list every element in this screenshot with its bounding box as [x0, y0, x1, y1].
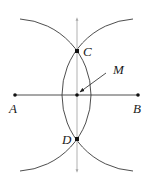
point-m — [75, 93, 79, 97]
label-m: M — [112, 62, 125, 77]
point-d — [75, 137, 79, 141]
label-d: D — [61, 132, 72, 147]
point-c — [75, 49, 79, 53]
point-a — [13, 93, 17, 97]
point-b — [136, 93, 140, 97]
arrow-to-m — [80, 73, 106, 92]
label-c: C — [83, 44, 92, 59]
perpendicular-bisector-diagram: A B C D M — [0, 0, 151, 183]
label-b: B — [133, 101, 141, 116]
label-a: A — [8, 101, 17, 116]
